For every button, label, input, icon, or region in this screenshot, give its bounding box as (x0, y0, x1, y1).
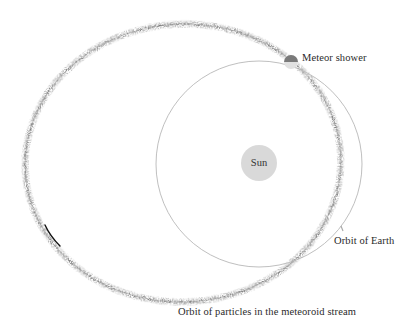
orbit-of-earth-label: Orbit of Earth (334, 236, 394, 247)
meteor-shower-label: Meteor shower (302, 53, 367, 64)
meteoroid-stream-orbit (18, 16, 348, 310)
meteor-shower-diagram (0, 0, 415, 319)
earth-orbit-marker (341, 226, 343, 231)
meteor-shower-marker (284, 55, 298, 69)
meteoroid-stream-label: Orbit of particles in the meteoroid stre… (178, 307, 356, 318)
sun-label: Sun (251, 158, 267, 169)
